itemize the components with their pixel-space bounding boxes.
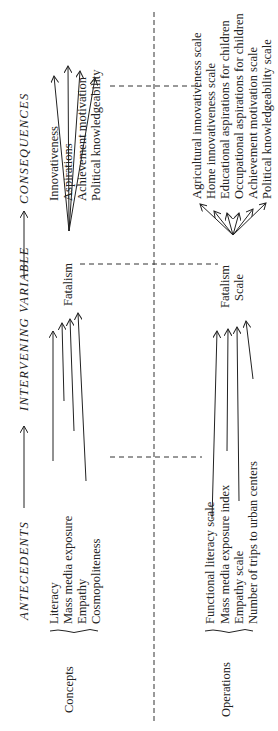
diagram-canvas: ANTECEDENTS INTERVENING VARIABLE CONSEQU… (0, 0, 278, 731)
operation-consequence: Home innovativeness scale (204, 63, 218, 199)
row-label-operations: Operations (219, 662, 233, 717)
header-antecedents: ANTECEDENTS (17, 521, 31, 620)
operation-antecedent: Number of trips to urban centers (246, 461, 260, 624)
operation-intervening: Fatalism (218, 265, 232, 308)
concept-antecedent: Cosmopoliteness (89, 539, 103, 624)
concept-intervening: Fatalism (61, 263, 75, 306)
operation-consequence: Educational aspirations for children (218, 20, 232, 199)
operation-intervening: Scale (232, 274, 246, 301)
concept-consequence: Aspirations (61, 143, 75, 201)
header-intervening: INTERVENING VARIABLE (17, 246, 31, 411)
operation-consequence: Agricultural innovativeness scale (190, 32, 204, 199)
operation-antecedent: Mass media exposure index (218, 485, 232, 624)
operation-consequence: Political knowledgeability scale (260, 39, 274, 199)
concept-consequence: Political knowledgeability (89, 69, 103, 201)
brace-icon (205, 630, 253, 633)
concept-antecedent: Mass media exposure (61, 516, 75, 624)
concept-consequence: Achievement motivation (75, 77, 89, 201)
concept-antecedent: Empathy (75, 579, 89, 624)
operation-consequence: Achievement motivation scale (246, 47, 260, 199)
concept-consequence: Innovativeness (47, 126, 61, 201)
operation-consequence: Occupational aspirations for children (232, 13, 246, 199)
header-consequences: CONSEQUENCES (17, 93, 31, 204)
brace-icon (50, 630, 98, 633)
operation-antecedent: Functional literacy scale (203, 502, 217, 624)
operation-antecedent: Empathy scale (232, 551, 246, 624)
row-label-concepts: Concepts (62, 666, 76, 713)
concept-antecedent: Literacy (47, 582, 61, 624)
